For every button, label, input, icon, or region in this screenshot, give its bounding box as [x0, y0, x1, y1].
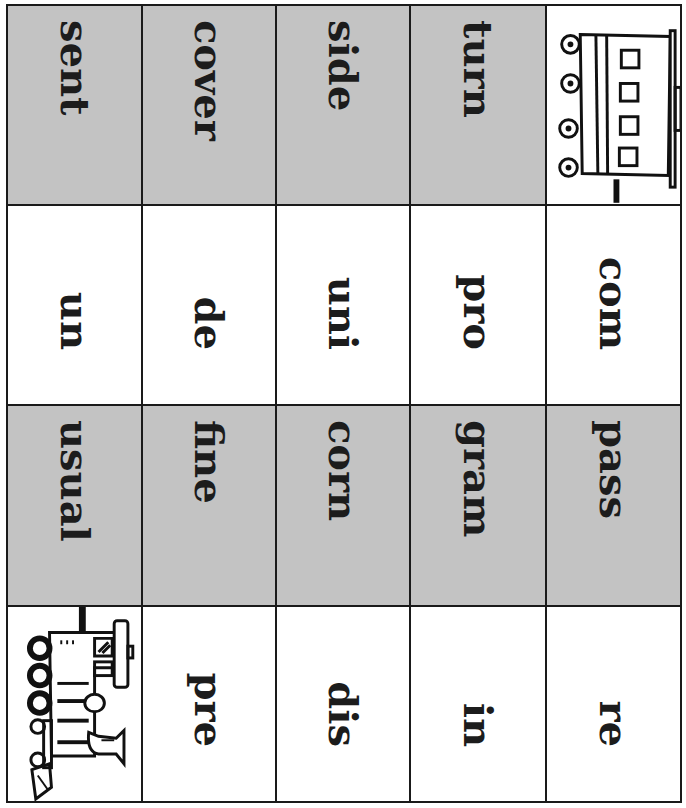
card-word: gram: [458, 420, 498, 537]
card-word: in: [458, 703, 498, 747]
card-word: dis: [323, 681, 363, 747]
card-pro[interactable]: pro: [411, 206, 547, 406]
train-engine-icon: [8, 607, 141, 801]
card-word: corn: [323, 420, 363, 521]
card-pre[interactable]: pre: [143, 607, 277, 801]
card-caboose[interactable]: [547, 6, 680, 206]
card-word: side: [323, 20, 363, 111]
card-re[interactable]: re: [547, 607, 680, 801]
card-side[interactable]: side: [277, 6, 411, 206]
card-word: pass: [594, 420, 634, 519]
card-word: fine: [189, 420, 229, 504]
card-word: pre: [189, 673, 229, 748]
card-word: re: [594, 700, 634, 747]
card-word: uni: [323, 277, 363, 350]
card-word: un: [55, 292, 95, 350]
card-pass[interactable]: pass: [547, 406, 680, 607]
card-com[interactable]: com: [547, 206, 680, 406]
card-in[interactable]: in: [411, 607, 547, 801]
card-uni[interactable]: uni: [277, 206, 411, 406]
card-word: cover: [189, 20, 229, 141]
card-word: turn: [458, 20, 498, 118]
card-word: usual: [55, 420, 95, 542]
card-dis[interactable]: dis: [277, 607, 411, 801]
card-word: sent: [55, 20, 95, 116]
syllable-card-grid: sent cover side turn: [6, 4, 682, 803]
card-sent[interactable]: sent: [8, 6, 143, 206]
card-engine[interactable]: [8, 607, 143, 801]
card-de[interactable]: de: [143, 206, 277, 406]
card-gram[interactable]: gram: [411, 406, 547, 607]
card-word: pro: [458, 274, 498, 350]
card-cover[interactable]: cover: [143, 6, 277, 206]
train-caboose-icon: [547, 6, 680, 204]
card-word: com: [594, 257, 634, 350]
card-turn[interactable]: turn: [411, 6, 547, 206]
card-un[interactable]: un: [8, 206, 143, 406]
card-corn[interactable]: corn: [277, 406, 411, 607]
card-usual[interactable]: usual: [8, 406, 143, 607]
card-word: de: [189, 297, 229, 350]
card-fine[interactable]: fine: [143, 406, 277, 607]
